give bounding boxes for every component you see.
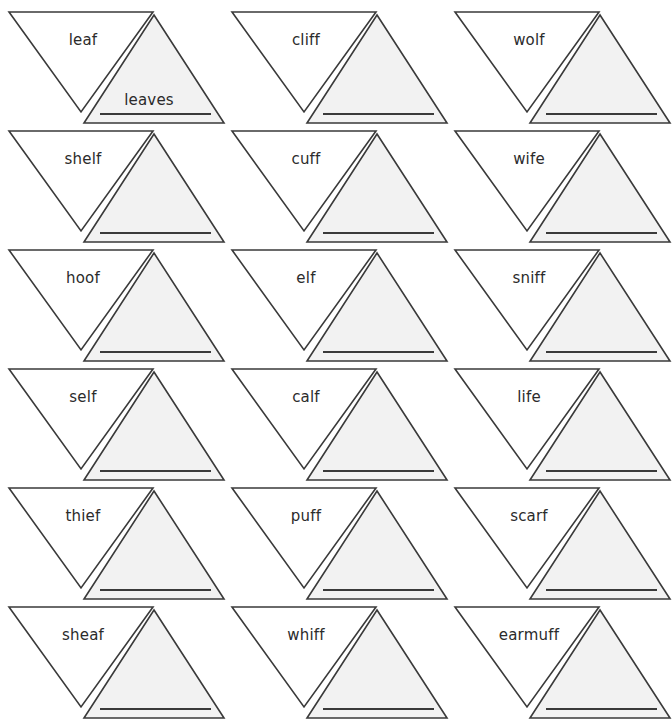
triangle-pair-graphic xyxy=(231,606,449,723)
singular-word: puff xyxy=(231,507,381,525)
singular-word: hoof xyxy=(8,269,158,287)
word-pair-cell: thief xyxy=(8,487,226,605)
singular-word: scarf xyxy=(454,507,604,525)
triangle-pair-graphic xyxy=(8,130,226,248)
word-pair-cell: elf xyxy=(231,249,449,367)
singular-word: leaf xyxy=(8,31,158,49)
singular-word: cuff xyxy=(231,150,381,168)
triangle-pair-graphic xyxy=(8,11,226,129)
triangle-pair-graphic xyxy=(454,606,672,723)
singular-word: wolf xyxy=(454,31,604,49)
triangle-pair-graphic xyxy=(8,368,226,486)
triangle-pair-graphic xyxy=(8,487,226,605)
word-pair-cell: shelf xyxy=(8,130,226,248)
word-pair-cell: wolf xyxy=(454,11,672,129)
triangle-pair-graphic xyxy=(231,487,449,605)
singular-word: elf xyxy=(231,269,381,287)
triangle-pair-graphic xyxy=(8,606,226,723)
plural-word-answer[interactable]: leaves xyxy=(74,91,224,109)
triangle-pair-graphic xyxy=(454,487,672,605)
singular-word: whiff xyxy=(231,626,381,644)
word-pair-cell: sniff xyxy=(454,249,672,367)
singular-word: wife xyxy=(454,150,604,168)
triangle-pair-graphic xyxy=(231,11,449,129)
singular-word: sheaf xyxy=(8,626,158,644)
triangle-pair-graphic xyxy=(454,130,672,248)
triangle-pair-graphic xyxy=(231,249,449,367)
singular-word: shelf xyxy=(8,150,158,168)
triangle-pair-graphic xyxy=(454,11,672,129)
triangle-pair-graphic xyxy=(8,249,226,367)
singular-word: self xyxy=(8,388,158,406)
word-pair-cell: calf xyxy=(231,368,449,486)
singular-word: calf xyxy=(231,388,381,406)
word-pair-cell: cliff xyxy=(231,11,449,129)
triangle-pair-graphic xyxy=(454,249,672,367)
singular-word: sniff xyxy=(454,269,604,287)
triangle-pair-graphic xyxy=(231,368,449,486)
word-pair-cell: puff xyxy=(231,487,449,605)
singular-word: cliff xyxy=(231,31,381,49)
triangle-pair-graphic xyxy=(454,368,672,486)
triangle-pair-graphic xyxy=(231,130,449,248)
singular-word: earmuff xyxy=(454,626,604,644)
word-pair-cell: hoof xyxy=(8,249,226,367)
word-pair-cell: wife xyxy=(454,130,672,248)
word-pair-cell: self xyxy=(8,368,226,486)
word-pair-cell: whiff xyxy=(231,606,449,723)
word-pair-cell: scarf xyxy=(454,487,672,605)
singular-word: thief xyxy=(8,507,158,525)
word-pair-cell: leafleaves xyxy=(8,11,226,129)
word-pair-cell: cuff xyxy=(231,130,449,248)
singular-word: life xyxy=(454,388,604,406)
word-pair-cell: earmuff xyxy=(454,606,672,723)
word-pair-cell: sheaf xyxy=(8,606,226,723)
word-pair-cell: life xyxy=(454,368,672,486)
